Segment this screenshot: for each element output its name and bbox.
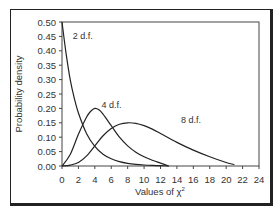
plot-area [62,22,259,166]
x-tick-label: 18 [204,174,215,185]
y-tick-label: 0.30 [38,74,57,85]
y-tick-label: 0.10 [38,132,57,143]
label-8df: 8 d.f. [181,115,201,125]
x-tick-label: 22 [237,174,248,185]
curve-4df [62,108,169,166]
y-tick-label: 0.50 [38,17,57,28]
x-tick-label: 6 [109,174,114,185]
y-tick-label: 0.00 [38,161,57,172]
plot-curves [62,22,234,166]
y-tick-label: 0.25 [38,89,57,100]
y-tick-label: 0.45 [38,31,57,42]
x-tick-label: 16 [188,174,199,185]
y-tick-label: 0.40 [38,45,57,56]
x-tick-label: 20 [221,174,232,185]
label-2df: 2 d.f. [73,31,93,41]
x-tick-label: 4 [92,174,97,185]
x-tick-label: 2 [76,174,81,185]
x-axis-label: Values of χ2 [135,186,186,197]
label-4df: 4 d.f. [101,100,121,110]
chi-square-chart: 0.000.050.100.150.200.250.300.350.400.45… [0,0,277,216]
x-tick-label: 8 [125,174,130,185]
x-tick-label: 14 [172,174,183,185]
curve-8df [62,123,234,166]
y-tick-label: 0.35 [38,60,57,71]
x-tick-label: 24 [254,174,265,185]
x-tick-label: 10 [139,174,150,185]
curve-2df [62,22,169,166]
x-tick-label: 12 [155,174,166,185]
y-tick-label: 0.20 [38,103,57,114]
x-tick-label: 0 [59,174,64,185]
y-tick-label: 0.05 [38,146,57,157]
y-axis-label: Probability density [13,55,24,132]
y-tick-label: 0.15 [38,117,57,128]
